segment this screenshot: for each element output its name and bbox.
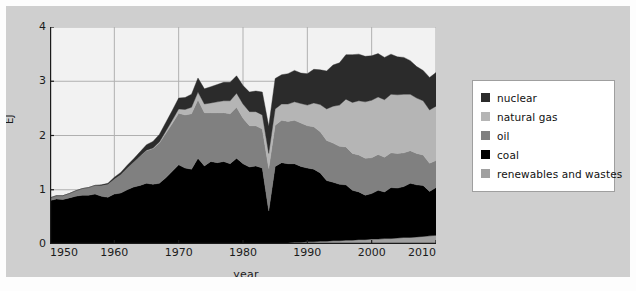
legend-item-coal[interactable]: coal [481, 145, 606, 164]
legend-swatch-icon [481, 112, 490, 121]
x-tick-label: 2010 [408, 247, 436, 258]
x-axis-ticks: 1950196019701980199020002010 [50, 247, 436, 263]
legend-label: renewables and wastes [497, 168, 622, 180]
legend-label: natural gas [497, 111, 558, 123]
y-tick-label: 1 [20, 184, 46, 195]
y-tick-label: 0 [20, 238, 46, 249]
legend-label: coal [497, 149, 519, 161]
x-tick-label: 1950 [50, 247, 78, 258]
chart-legend: nuclearnatural gasoilcoalrenewables and … [472, 80, 615, 192]
x-tick-label: 1990 [293, 247, 321, 258]
legend-item-nuclear[interactable]: nuclear [481, 88, 606, 107]
y-axis-ticks: 01234 [12, 27, 46, 244]
chart-figure: 01234 1950196019701980199020002010 EJ ye… [0, 0, 636, 291]
legend-item-renewables[interactable]: renewables and wastes [481, 164, 606, 183]
figure-background: 01234 1950196019701980199020002010 EJ ye… [6, 6, 630, 277]
x-tick-label: 2000 [358, 247, 386, 258]
x-tick-label: 1960 [100, 247, 128, 258]
y-tick-label: 3 [20, 75, 46, 86]
y-tick-label: 2 [20, 130, 46, 141]
x-tick-label: 1980 [229, 247, 257, 258]
stacked-area-chart [50, 27, 436, 244]
y-tick-label: 4 [20, 21, 46, 32]
legend-swatch-icon [481, 93, 490, 102]
legend-label: nuclear [497, 92, 537, 104]
legend-swatch-icon [481, 150, 490, 159]
y-axis-label: EJ [4, 114, 15, 124]
legend-item-oil[interactable]: oil [481, 126, 606, 145]
legend-swatch-icon [481, 169, 490, 178]
x-tick-label: 1970 [165, 247, 193, 258]
legend-swatch-icon [481, 131, 490, 140]
x-axis-label: year [6, 268, 486, 281]
plot-area [50, 27, 436, 244]
legend-item-natural[interactable]: natural gas [481, 107, 606, 126]
legend-label: oil [497, 130, 510, 142]
